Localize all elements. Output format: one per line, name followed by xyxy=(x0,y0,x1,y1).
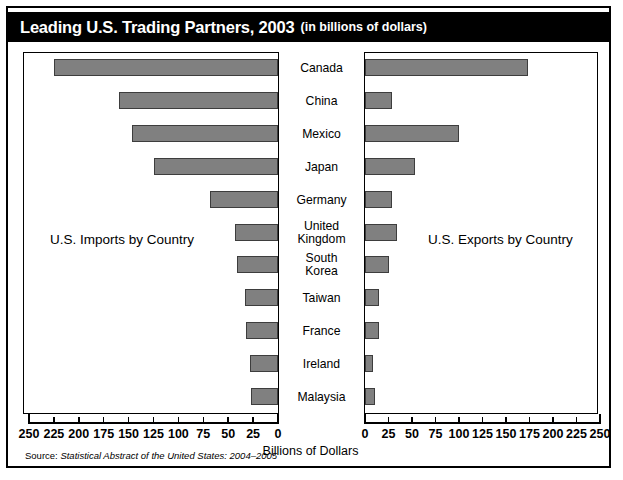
axis-tick xyxy=(529,417,531,424)
x-axis: 2502252001751501251007550250025507510012… xyxy=(8,414,613,470)
axis-tick xyxy=(53,417,55,424)
axis-tick xyxy=(458,417,460,424)
import-bar xyxy=(235,224,278,241)
country-label: Japan xyxy=(278,161,365,174)
axis-tick-label: 150 xyxy=(118,427,139,441)
export-bar xyxy=(365,256,389,273)
axis-tick-label: 50 xyxy=(221,427,235,441)
import-bar xyxy=(132,125,278,142)
axis-tick-label: 0 xyxy=(275,427,282,441)
axis-tick xyxy=(103,417,105,424)
import-bar xyxy=(154,158,279,175)
export-bar xyxy=(365,289,379,306)
axis-tick xyxy=(277,417,279,424)
export-bar xyxy=(365,322,379,339)
country-label: Canada xyxy=(278,62,365,75)
source-citation: Statistical Abstract of the United State… xyxy=(60,450,277,461)
axis-tick xyxy=(435,417,437,424)
axis-tick xyxy=(364,417,366,424)
axis-tick-label: 200 xyxy=(68,427,89,441)
country-label: Taiwan xyxy=(278,292,365,305)
axis-tick xyxy=(599,417,601,424)
axis-tick-label: 100 xyxy=(449,427,470,441)
export-bar xyxy=(365,224,397,241)
export-bar xyxy=(365,388,375,405)
axis-tick xyxy=(153,417,155,424)
axis-tick-label: 250 xyxy=(590,427,611,441)
axis-tick xyxy=(252,417,254,424)
import-bar xyxy=(237,256,278,273)
country-label: SouthKorea xyxy=(278,252,365,278)
source-prefix: Source: xyxy=(25,450,60,461)
axis-tick-label: 225 xyxy=(43,427,64,441)
country-label: Ireland xyxy=(278,358,365,371)
import-bar xyxy=(210,191,278,208)
axis-tick xyxy=(576,417,578,424)
axis-tick xyxy=(28,417,30,424)
axis-tick xyxy=(411,417,413,424)
import-bar xyxy=(245,289,278,306)
country-label: China xyxy=(278,95,365,108)
axis-tick-label: 175 xyxy=(519,427,540,441)
axis-tick-label: 125 xyxy=(472,427,493,441)
axis-tick-label: 100 xyxy=(168,427,189,441)
axis-tick xyxy=(128,417,130,424)
axis-tick xyxy=(482,417,484,424)
export-bar xyxy=(365,125,459,142)
axis-tick-label: 25 xyxy=(246,427,260,441)
import-bar xyxy=(250,355,278,372)
axis-tick-label: 25 xyxy=(382,427,396,441)
country-label: Germany xyxy=(278,194,365,207)
import-bar xyxy=(251,388,278,405)
export-bar xyxy=(365,191,392,208)
axis-tick-label: 200 xyxy=(543,427,564,441)
axis-tick xyxy=(552,417,554,424)
export-bar xyxy=(365,355,373,372)
import-bar xyxy=(119,92,278,109)
exports-caption: U.S. Exports by Country xyxy=(428,232,573,247)
chart-title-subtitle: (in billions of dollars) xyxy=(301,20,427,34)
axis-tick-label: 150 xyxy=(496,427,517,441)
axis-tick xyxy=(227,417,229,424)
axis-tick xyxy=(505,417,507,424)
axis-tick-label: 75 xyxy=(196,427,210,441)
country-label: France xyxy=(278,325,365,338)
axis-tick-label: 250 xyxy=(19,427,40,441)
axis-tick xyxy=(203,417,205,424)
chart-title-bar: Leading U.S. Trading Partners, 2003 (in … xyxy=(8,12,609,42)
source-note: Source: Statistical Abstract of the Unit… xyxy=(25,450,277,461)
import-bar xyxy=(54,59,278,76)
axis-tick-label: 175 xyxy=(93,427,114,441)
export-bar xyxy=(365,59,528,76)
export-bar xyxy=(365,92,392,109)
imports-caption: U.S. Imports by Country xyxy=(50,232,194,247)
axis-tick-label: 50 xyxy=(405,427,419,441)
axis-tick-label: 225 xyxy=(566,427,587,441)
country-label: UnitedKingdom xyxy=(278,220,365,246)
axis-tick-label: 75 xyxy=(429,427,443,441)
axis-tick xyxy=(178,417,180,424)
export-bar xyxy=(365,158,415,175)
axis-tick xyxy=(388,417,390,424)
country-label: Malaysia xyxy=(278,391,365,404)
axis-tick-label: 125 xyxy=(143,427,164,441)
chart-figure: Leading U.S. Trading Partners, 2003 (in … xyxy=(6,6,611,468)
country-label: Mexico xyxy=(278,128,365,141)
axis-tick-label: 0 xyxy=(362,427,369,441)
import-bar xyxy=(246,322,278,339)
axis-tick xyxy=(78,417,80,424)
page-title: Leading U.S. Trading Partners, 2003 xyxy=(20,18,295,37)
